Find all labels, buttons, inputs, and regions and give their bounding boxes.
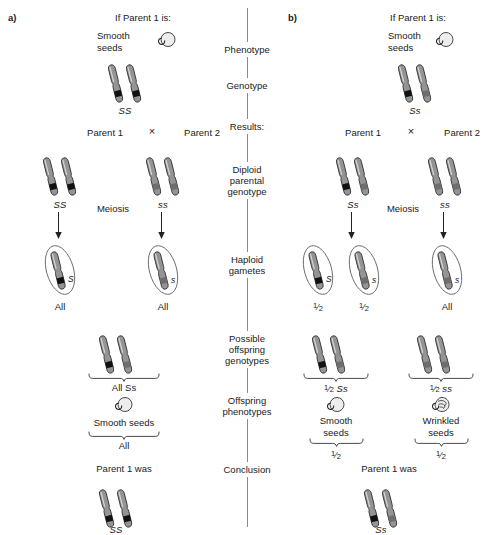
- panel-b-tag: b): [288, 12, 297, 24]
- chromosome-dominant: [338, 155, 347, 193]
- chromosome-dominant: [119, 487, 128, 525]
- panel-a-parent1-genotype: SS: [53, 199, 66, 211]
- panel-b-offspring2-phenotype: Wrinkled seeds: [423, 415, 460, 438]
- chromosome-recessive: [148, 155, 157, 193]
- chromosome-recessive: [332, 333, 341, 371]
- panel-a-offspring-genotype: All Ss: [112, 382, 136, 394]
- brace-offspring-genotype: [303, 373, 369, 382]
- chromosome-dominant: [366, 487, 375, 525]
- panel-b-gamete2-proportion: 1⁄2: [359, 300, 369, 314]
- panel-b-offspring1-phenotype: Smooth seeds: [320, 415, 353, 438]
- panel-b-gamete3-allele: s: [455, 275, 459, 287]
- meiosis-arrow: [157, 212, 166, 240]
- axis-step-possible-offspring-genotypes: Possible offspring genotypes: [221, 331, 273, 368]
- panel-a-phenotype-label: Smooth seeds: [97, 30, 130, 53]
- chromosome-dominant: [45, 155, 54, 193]
- brace-offspring-genotype: [88, 373, 160, 382]
- panel-b-parent2-label: Parent 2: [444, 127, 480, 139]
- gamete-cell: [425, 240, 465, 298]
- chromosome-recessive: [430, 155, 439, 193]
- panel-b-parent2-genotype: ss: [440, 199, 450, 211]
- smooth-seed-icon: [437, 31, 454, 48]
- meiosis-arrow: [54, 212, 63, 240]
- wrinkled-seed-icon: [433, 396, 450, 413]
- chromosome-dominant: [63, 155, 72, 193]
- chromosome-dominant: [400, 62, 409, 100]
- panel-b-gamete1-allele: S: [326, 274, 332, 286]
- smooth-seed-icon: [159, 31, 176, 48]
- brace-offspring-phenotype: [414, 438, 469, 447]
- panel-a-meiosis-label: Meiosis: [97, 203, 129, 215]
- panel-b-conclusion-genotype: Ss: [375, 524, 387, 535]
- gamete-cell: [296, 240, 336, 298]
- chromosome-dominant: [110, 62, 119, 100]
- chromosome-recessive: [356, 155, 365, 193]
- gamete-cell: [141, 240, 181, 298]
- panel-a-gamete-right-allele: s: [171, 275, 175, 287]
- chromosome-recessive: [448, 155, 457, 193]
- chromosome-dominant: [314, 333, 323, 371]
- meiosis-arrow: [439, 212, 448, 240]
- panel-b-prompt: If Parent 1 is:: [390, 12, 446, 24]
- panel-a-gamete-right-proportion: All: [158, 301, 169, 313]
- panel-b-cross-symbol: ×: [408, 126, 414, 138]
- panel-b-offspring1-genotype: 1⁄2 Ss: [324, 382, 348, 396]
- panel-a-tag: a): [8, 12, 16, 24]
- chromosome-recessive: [418, 62, 427, 100]
- panel-b-offspring2-genotype: 1⁄2 ss: [430, 382, 452, 396]
- panel-a-offspring-proportion: All: [119, 440, 130, 452]
- chromosome-recessive: [166, 155, 175, 193]
- panel-a-prompt: If Parent 1 is:: [115, 12, 171, 24]
- panel-b-gamete3-proportion: All: [442, 301, 453, 313]
- panel-a-top-genotype: SS: [118, 105, 131, 117]
- axis-step-genotype: Genotype: [222, 78, 271, 93]
- chromosome-recessive: [384, 487, 393, 525]
- smooth-seed-icon: [328, 396, 345, 413]
- axis-step-results: Results:: [226, 119, 268, 134]
- gamete-cell: [38, 240, 78, 298]
- smooth-seed-icon: [116, 396, 133, 413]
- panel-a-offspring-phenotype: Smooth seeds: [94, 417, 155, 429]
- panel-a-parent2-genotype: ss: [158, 199, 168, 211]
- panel-a-conclusion-genotype: SS: [109, 524, 122, 535]
- axis-step-offspring-phenotypes: Offspring phenotypes: [218, 393, 275, 419]
- meiosis-arrow: [347, 212, 356, 240]
- panel-b-offspring2-proportion: 1⁄2: [436, 448, 446, 462]
- chromosome-recessive: [119, 333, 128, 371]
- panel-b-conclusion-label: Parent 1 was: [361, 463, 416, 475]
- brace-offspring-phenotype: [88, 431, 160, 440]
- axis-step-diploid-parental-genotype: Diploid parental genotype: [223, 162, 270, 199]
- panel-b-parent1-label: Parent 1: [345, 127, 381, 139]
- panel-a-parent2-label: Parent 2: [184, 127, 220, 139]
- panel-b-phenotype-label: Smooth seeds: [388, 30, 421, 53]
- brace-offspring-genotype: [408, 373, 474, 382]
- chromosome-dominant: [101, 487, 110, 525]
- gamete-cell: [342, 240, 382, 298]
- chromosome-recessive: [419, 333, 428, 371]
- chromosome-dominant: [101, 333, 110, 371]
- panel-b-parent1-genotype: Ss: [347, 199, 359, 211]
- panel-b-offspring1-proportion: 1⁄2: [331, 448, 341, 462]
- axis-step-haploid-gametes: Haploid gametes: [225, 252, 269, 278]
- chromosome-recessive: [437, 333, 446, 371]
- panel-a-cross-symbol: ×: [149, 126, 155, 138]
- genetics-testcross-figure: Phenotype Genotype Results: Diploid pare…: [0, 0, 495, 535]
- panel-b-gamete2-allele: s: [372, 275, 376, 287]
- panel-a-gamete-left-allele: S: [68, 274, 74, 286]
- panel-b-gamete1-proportion: 1⁄2: [313, 300, 323, 314]
- panel-a-gamete-left-proportion: All: [55, 301, 66, 313]
- axis-step-conclusion: Conclusion: [220, 462, 275, 477]
- axis-step-phenotype: Phenotype: [220, 42, 273, 57]
- brace-offspring-phenotype: [309, 438, 364, 447]
- panel-b-meiosis-label: Meiosis: [387, 203, 419, 215]
- chromosome-dominant: [128, 62, 137, 100]
- panel-b-top-genotype: Ss: [409, 105, 421, 117]
- panel-a-conclusion-label: Parent 1 was: [96, 463, 151, 475]
- panel-a-parent1-label: Parent 1: [87, 127, 123, 139]
